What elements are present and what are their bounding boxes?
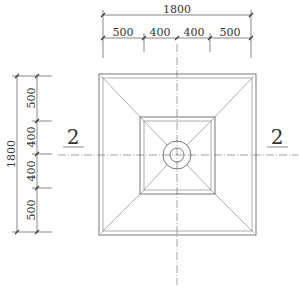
hip-lines — [101, 76, 254, 233]
section-label-right: 2 — [271, 125, 284, 149]
section-marker-left: 2 — [63, 125, 84, 149]
left-overall-dim: 1800 — [5, 140, 18, 168]
section-marker-right: 2 — [267, 125, 288, 149]
outer-inset-square — [103, 78, 252, 231]
section-label-left: 2 — [67, 125, 80, 149]
top-dim-seg-2: 400 — [150, 26, 171, 39]
left-dim-seg-4: 500 — [25, 200, 38, 221]
top-dim-seg-4: 500 — [220, 26, 241, 39]
left-dimension-chain: 1800 500 400 400 500 — [5, 74, 52, 234]
left-dim-seg-2: 400 — [25, 127, 38, 148]
top-overall-dim: 1800 — [163, 3, 191, 16]
plan-drawing: 1800 500 400 400 500 1800 500 400 400 50… — [0, 0, 299, 293]
left-dim-seg-3: 400 — [25, 161, 38, 182]
top-dim-seg-1: 500 — [113, 26, 134, 39]
left-dim-seg-1: 500 — [25, 88, 38, 109]
top-dim-seg-3: 400 — [184, 26, 205, 39]
